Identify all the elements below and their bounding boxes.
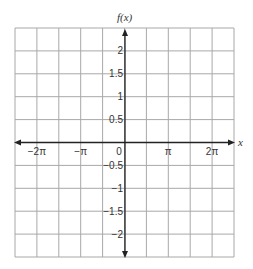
axes: [14, 29, 235, 258]
y-tick-label: 0.5: [109, 114, 123, 125]
y-tick-label: −1: [112, 183, 124, 194]
x-axis-label: x: [237, 136, 243, 148]
y-tick-label: 2: [117, 45, 123, 56]
coordinate-grid-chart: f(x) x −2π−π0π2π 21.510.5−0.5−1−1.5−2: [0, 0, 253, 269]
y-tick-label: 1.5: [109, 68, 123, 79]
x-tick-label: −2π: [28, 146, 46, 157]
x-tick-label: 0: [116, 146, 122, 157]
x-tick-label: −π: [74, 146, 87, 157]
y-tick-label: 1: [117, 91, 123, 102]
x-tick-label: 2π: [206, 146, 219, 157]
y-tick-label: −0.5: [103, 160, 123, 171]
x-tick-label: π: [165, 146, 172, 157]
y-axis-up-arrow-icon: [122, 29, 128, 36]
y-tick-label: −1.5: [103, 206, 123, 217]
y-axis-label: f(x): [117, 11, 133, 24]
y-tick-label: −2: [112, 229, 124, 240]
